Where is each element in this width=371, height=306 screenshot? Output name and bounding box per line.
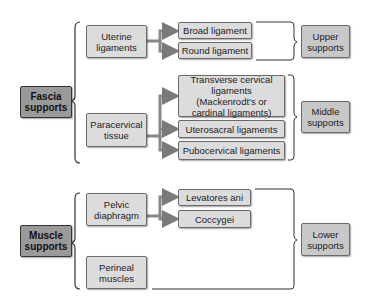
pelvic-diaphragm-node: Pelvic diaphragm [86,193,147,226]
muscle-supports-node: Muscle supports [20,225,72,257]
perineal-muscles-node: Perineal muscles [86,256,147,289]
transverse-cervical-ligaments-node: Transverse cervical ligaments (Mackenrod… [178,75,285,117]
uterine-ligaments-node: Uterine ligaments [86,25,147,58]
round-ligament-node: Round ligament [178,42,252,59]
paracervical-tissue-node: Paracervical tissue [86,113,147,147]
broad-ligament-node: Broad ligament [178,22,252,39]
lower-supports-node: Lower supports [301,223,350,256]
pubocervical-ligaments-node: Pubocervical ligaments [178,141,285,160]
middle-supports-node: Middle supports [301,101,350,133]
levatores-ani-node: Levatores ani [178,189,251,206]
coccygei-node: Coccygei [178,210,251,228]
fascia-supports-node: Fascia supports [20,86,72,118]
uterosacral-ligaments-node: Uterosacral ligaments [178,120,285,138]
upper-supports-node: Upper supports [301,25,350,58]
